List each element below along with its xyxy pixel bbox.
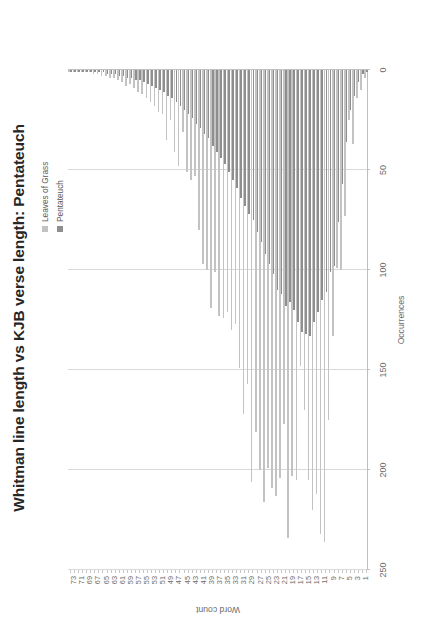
- category-axis-tick: [127, 570, 128, 573]
- bar-pentateuch-68: [94, 70, 96, 72]
- category-axis-label: 15: [305, 576, 312, 596]
- legend-item-1[interactable]: Pentateuch: [55, 162, 65, 232]
- bar-pentateuch-57: [139, 70, 141, 80]
- bar-pentateuch-2: [362, 70, 364, 74]
- category-axis-label: 53: [151, 576, 158, 596]
- value-axis-tick: [367, 69, 370, 70]
- category-axis-label: 33: [232, 576, 239, 596]
- category-axis-tick: [281, 570, 282, 573]
- category-axis-tick: [196, 570, 197, 573]
- bar-pentateuch-41: [204, 70, 206, 134]
- legend-item-0[interactable]: Leaves of Grass: [40, 162, 50, 232]
- category-axis-tick: [257, 570, 258, 573]
- category-axis-tick: [151, 570, 152, 573]
- category-axis-tick: [74, 570, 75, 573]
- category-axis-label: 47: [175, 576, 182, 596]
- category-axis-tick: [325, 570, 326, 573]
- category-axis-tick: [293, 570, 294, 573]
- bar-pentateuch-43: [196, 70, 198, 124]
- category-axis-tick: [338, 570, 339, 573]
- category-axis-tick: [297, 570, 298, 573]
- category-axis-label: 67: [94, 576, 101, 596]
- category-axis-tick: [346, 570, 347, 573]
- bar-pentateuch-38: [216, 70, 218, 152]
- category-axis-tick: [200, 570, 201, 573]
- bar-pentateuch-7: [342, 70, 344, 184]
- chart-title: Whitman line length vs KJB verse length:…: [10, 0, 28, 636]
- bar-pentateuch-20: [289, 70, 291, 302]
- bar-pentateuch-73: [74, 70, 76, 72]
- bar-pentateuch-48: [176, 70, 178, 102]
- bar-pentateuch-31: [244, 70, 246, 206]
- bar-pentateuch-26: [265, 70, 267, 254]
- bar-pentateuch-36: [224, 70, 226, 164]
- category-axis-label: 21: [281, 576, 288, 596]
- category-axis-label: 59: [127, 576, 134, 596]
- category-axis-tick: [273, 570, 274, 573]
- category-axis-label: 13: [313, 576, 320, 596]
- bar-pentateuch-64: [111, 70, 113, 74]
- bar-pentateuch-18: [297, 70, 299, 322]
- bar-pentateuch-50: [167, 70, 169, 96]
- bar-pentateuch-46: [184, 70, 186, 110]
- bar-pentateuch-9: [334, 70, 336, 266]
- category-axis-tick: [131, 570, 132, 573]
- bar-pentateuch-3: [358, 70, 360, 82]
- legend-label: Pentateuch: [55, 180, 65, 222]
- bar-pentateuch-40: [208, 70, 210, 138]
- category-axis-tick: [171, 570, 172, 573]
- category-axis-tick: [208, 570, 209, 573]
- category-axis-label: 61: [119, 576, 126, 596]
- bar-pentateuch-61: [123, 70, 125, 76]
- legend-swatch-icon: [57, 226, 63, 232]
- category-axis-tick: [188, 570, 189, 573]
- category-axis-tick: [228, 570, 229, 573]
- bar-pentateuch-49: [171, 70, 173, 98]
- chart-figure: Whitman line length vs KJB verse length:…: [0, 0, 444, 636]
- bar-pentateuch-11: [326, 70, 328, 292]
- plot-area: 250200150100500 135791113151719212325272…: [68, 70, 368, 570]
- bar-pentateuch-5: [350, 70, 352, 110]
- category-axis-tick: [70, 570, 71, 573]
- bar-pentateuch-33: [236, 70, 238, 188]
- category-axis-tick: [143, 570, 144, 573]
- category-axis-tick: [269, 570, 270, 573]
- bar-pentateuch-69: [90, 70, 92, 72]
- chart-page: Whitman line length vs KJB verse length:…: [0, 0, 444, 636]
- bar-pentateuch-45: [188, 70, 190, 114]
- category-axis-tick: [252, 570, 253, 573]
- bar-pentateuch-59: [131, 70, 133, 78]
- category-axis-tick: [329, 570, 330, 573]
- category-axis-tick: [224, 570, 225, 573]
- category-axis-tick: [111, 570, 112, 573]
- category-axis-label: 39: [208, 576, 215, 596]
- category-axis-tick: [236, 570, 237, 573]
- category-axis-label: 3: [354, 576, 361, 596]
- category-axis-label: 37: [216, 576, 223, 596]
- category-axis-tick: [179, 570, 180, 573]
- category-axis-tick: [309, 570, 310, 573]
- legend-label: Leaves of Grass: [40, 162, 50, 222]
- category-axis-tick: [139, 570, 140, 573]
- category-axis-label: 17: [297, 576, 304, 596]
- bar-pentateuch-8: [338, 70, 340, 222]
- bar-pentateuch-55: [147, 70, 149, 84]
- category-axis-label: 35: [224, 576, 231, 596]
- category-axis-label: 71: [78, 576, 85, 596]
- category-axis-tick: [135, 570, 136, 573]
- category-axis-tick: [86, 570, 87, 573]
- value-axis-label: 0: [378, 50, 388, 90]
- bar-pentateuch-56: [143, 70, 145, 82]
- category-axis-label: 51: [159, 576, 166, 596]
- category-axis-tick: [192, 570, 193, 573]
- category-axis-tick: [78, 570, 79, 573]
- category-axis-tick: [350, 570, 351, 573]
- category-axis-tick: [94, 570, 95, 573]
- bar-pentateuch-22: [281, 70, 283, 294]
- category-axis-tick: [362, 570, 363, 573]
- value-axis-tick: [367, 569, 370, 570]
- category-axis-tick: [159, 570, 160, 573]
- bar-pentateuch-23: [277, 70, 279, 290]
- category-axis-tick: [305, 570, 306, 573]
- bar-pentateuch-37: [220, 70, 222, 158]
